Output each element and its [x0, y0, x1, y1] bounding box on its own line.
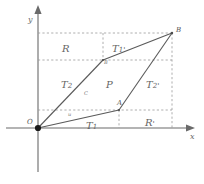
vertex-A-dot — [118, 109, 120, 111]
point-label-B-upper-left: B — [104, 60, 108, 65]
region-label-T2: T2 — [61, 80, 72, 90]
origin-dot — [35, 125, 41, 131]
vertex-B-dot — [171, 32, 173, 34]
region-R-name: R — [62, 43, 70, 54]
region-T2p-name: T — [146, 79, 153, 90]
region-Rp-prime: ' — [153, 119, 155, 128]
origin-label: O — [27, 119, 33, 126]
region-T2p-prime: ' — [157, 81, 159, 90]
region-label-R: R — [62, 44, 70, 54]
point-label-B-top-right: B — [176, 27, 181, 34]
region-label-R-prime: R' — [145, 118, 155, 128]
region-T1p-name: T — [112, 43, 119, 54]
region-T1p-prime: ' — [123, 45, 125, 54]
y-axis-arrow — [34, 5, 41, 14]
edge-C-O — [38, 60, 103, 128]
edge-A-B — [119, 33, 172, 110]
edge-O-A — [38, 110, 119, 128]
region-label-P: P — [106, 80, 113, 90]
geometry-figure: x y O A B B C u R T1' T2 P T2' T1 R' — [0, 0, 204, 184]
region-label-T1-prime: T1' — [112, 44, 125, 54]
region-T1-sub: 1 — [93, 123, 97, 131]
y-axis-label: y — [28, 16, 33, 24]
region-Rp-name: R — [145, 117, 153, 128]
x-axis-arrow — [186, 124, 195, 131]
region-label-T1: T1 — [86, 121, 97, 131]
diagram-canvas — [0, 0, 204, 184]
region-P-name: P — [106, 79, 113, 90]
region-T1-name: T — [86, 120, 93, 131]
point-label-C: C — [84, 91, 88, 96]
point-label-u: u — [68, 112, 71, 117]
x-axis-label: x — [190, 133, 195, 141]
point-label-A: A — [117, 100, 122, 107]
region-T2-sub: 2 — [68, 82, 72, 90]
region-T2-name: T — [61, 79, 68, 90]
region-label-T2-prime: T2' — [146, 80, 159, 90]
